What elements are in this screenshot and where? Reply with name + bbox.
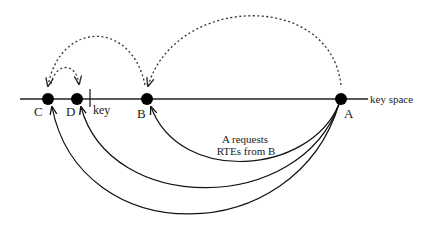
node-d-label: D — [66, 104, 75, 119]
key-space-label: key space — [370, 93, 413, 105]
annotation-line-2: RTEs from B — [217, 145, 276, 157]
node-a — [335, 93, 347, 105]
node-a-label: A — [344, 106, 354, 121]
node-c — [42, 93, 54, 105]
dashed-arrow-b-to-c — [48, 36, 145, 86]
node-b-label: B — [137, 106, 146, 121]
node-c-label: C — [34, 104, 43, 119]
solid-arrow-a-to-c — [52, 104, 339, 214]
routing-diagram: key space key C D B A A requests RTEs fr… — [0, 0, 426, 231]
dashed-arrow-c-to-d — [51, 68, 79, 85]
annotation-line-1: A requests — [222, 133, 268, 145]
node-b — [141, 93, 153, 105]
key-label: key — [93, 103, 110, 117]
dashed-arrow-a-to-b — [148, 16, 341, 86]
